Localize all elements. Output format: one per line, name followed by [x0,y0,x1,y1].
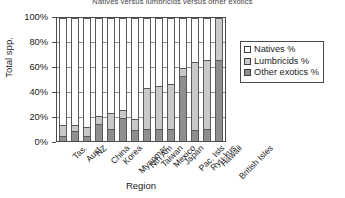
bar-column [93,18,105,141]
bar-segment [95,124,104,141]
bar-column [117,18,129,141]
plot-area [56,17,226,142]
bar-segment [167,18,176,84]
bar-column [213,18,225,141]
legend-swatch [244,69,251,76]
bar-column [153,18,165,141]
bar-segment [59,18,68,125]
bar-segment [143,88,152,129]
y-axis-tick-label: 20% [29,112,48,122]
bar-column [57,18,69,141]
bar-segment [179,18,188,68]
bar-segment [131,18,140,119]
bar-segment [83,18,92,127]
bar-segment [59,136,68,141]
bar-segment [167,129,176,141]
legend-item: Lumbricids % [244,56,319,68]
x-axis-title: Region [56,180,226,191]
bar-segment [203,60,212,129]
bar-segment [155,129,164,141]
stacked-bar [71,18,80,141]
stacked-bar [215,18,224,141]
y-axis-tick-label: 80% [29,37,48,47]
stacked-bar [155,18,164,141]
y-axis-tick-label: 60% [29,62,48,72]
bar-group [57,18,225,141]
bar-segment [107,113,116,129]
stacked-bar [83,18,92,141]
bar-segment [83,136,92,141]
bar-segment [179,68,188,75]
bar-column [189,18,201,141]
legend-item: Natives % [244,44,319,56]
stacked-bar [203,18,212,141]
bar-segment [191,62,200,130]
bar-segment [83,127,92,136]
y-axis-tick-label: 0% [35,137,48,147]
chart-root: Natives versus lumbricids versus other e… [0,0,345,198]
bar-segment [131,130,140,141]
bar-segment [107,18,116,113]
legend-swatch [244,58,251,65]
chart-title: Natives versus lumbricids versus other e… [0,0,345,6]
bar-segment [107,129,116,141]
legend-swatch [244,46,251,53]
y-axis-tick-label: 40% [29,87,48,97]
stacked-bar [191,18,200,141]
bar-segment [71,18,80,125]
bar-segment [71,131,80,141]
bar-column [105,18,117,141]
stacked-bar [179,18,188,141]
bar-segment [143,129,152,141]
bar-column [177,18,189,141]
bar-segment [59,125,68,136]
stacked-bar [131,18,140,141]
legend-item: Other exotics % [244,67,319,79]
bar-segment [131,119,140,130]
bar-segment [155,86,164,129]
bar-column [81,18,93,141]
bar-segment [191,130,200,141]
stacked-bar [107,18,116,141]
bar-segment [215,60,224,141]
bar-segment [119,18,128,110]
y-axis-tick-label: 100% [24,12,48,22]
bar-segment [95,116,104,123]
stacked-bar [143,18,152,141]
bar-segment [155,18,164,86]
legend-label: Natives % [254,44,295,56]
bar-segment [191,18,200,62]
y-axis-tick-labels: 0%20%40%60%80%100% [0,17,52,142]
bar-segment [119,118,128,141]
bar-segment [179,76,188,141]
bar-column [129,18,141,141]
bar-segment [143,18,152,88]
bar-column [141,18,153,141]
stacked-bar [119,18,128,141]
legend-label: Lumbricids % [254,56,309,68]
bar-column [201,18,213,141]
bar-column [69,18,81,141]
x-axis-tick-labels: Tas.Aust.NZChinaKoreaMyanmarNth AmTaiwan… [56,143,226,183]
bar-column [165,18,177,141]
legend-label: Other exotics % [254,67,319,79]
bar-segment [203,129,212,141]
bar-segment [119,110,128,117]
stacked-bar [167,18,176,141]
bar-segment [215,18,224,60]
bar-segment [203,18,212,60]
stacked-bar [95,18,104,141]
chart-legend: Natives %Lumbricids %Other exotics % [240,41,324,83]
bar-segment [167,84,176,128]
stacked-bar [59,18,68,141]
bar-segment [95,18,104,116]
